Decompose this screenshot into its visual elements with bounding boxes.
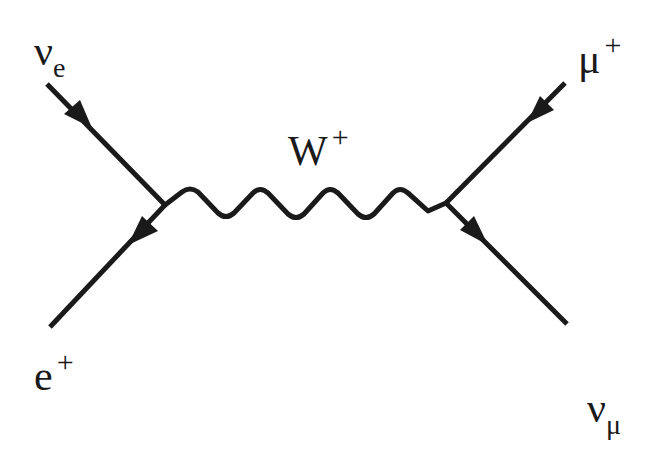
label-mu-plus-main: μ	[578, 36, 601, 82]
label-e-plus-sup: +	[57, 345, 74, 378]
label-nu-mu-sub: μ	[606, 409, 621, 440]
nu-mu-line	[446, 203, 567, 324]
label-e-plus: e+	[34, 355, 74, 397]
label-nu-e-sub: e	[53, 52, 65, 83]
mu-plus-line	[446, 83, 565, 203]
label-w-plus-main: W	[288, 128, 328, 174]
feynman-diagram	[0, 0, 662, 464]
label-w-plus-sup: +	[332, 120, 349, 153]
label-nu-e: νe	[34, 30, 65, 72]
label-w-plus: W+	[288, 130, 349, 172]
label-mu-plus-sup: +	[605, 28, 622, 61]
label-mu-plus: μ+	[578, 38, 621, 80]
label-e-plus-main: e	[34, 353, 53, 399]
nu-e-line	[47, 84, 165, 205]
w-boson-propagator	[165, 189, 446, 218]
label-nu-e-main: ν	[34, 28, 53, 74]
label-nu-mu: νμ	[587, 387, 621, 429]
label-nu-mu-main: ν	[587, 385, 606, 431]
